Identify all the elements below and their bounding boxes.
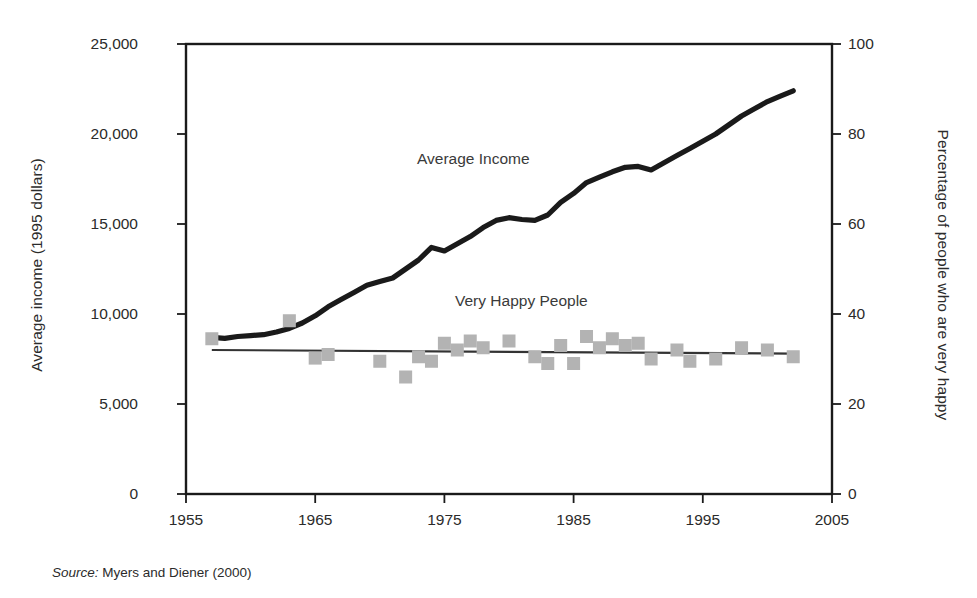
source-citation: Myers and Diener (2000) xyxy=(99,565,252,580)
y-tick-label-right: 0 xyxy=(848,486,908,502)
chart-figure: Average income (1995 dollars) Percentage… xyxy=(0,0,977,598)
happiness-data-marker xyxy=(619,339,632,352)
y-tick-label-left: 10,000 xyxy=(40,306,138,322)
happiness-data-marker xyxy=(541,357,554,370)
happiness-data-marker xyxy=(322,348,335,361)
happiness-data-marker xyxy=(567,357,580,370)
happiness-data-marker xyxy=(477,341,490,354)
y-tick-label-left: 20,000 xyxy=(40,126,138,142)
x-tick-label: 2005 xyxy=(787,512,877,528)
y-tick-label-right: 20 xyxy=(848,396,908,412)
y-tick-label-left: 25,000 xyxy=(40,36,138,52)
source-note: Source: Myers and Diener (2000) xyxy=(52,565,252,580)
happiness-data-marker xyxy=(761,344,774,357)
happiness-data-marker xyxy=(503,335,516,348)
series-label-average-income: Average Income xyxy=(417,150,530,168)
right-axis-title: Percentage of people who are very happy xyxy=(934,40,952,510)
happiness-data-marker xyxy=(528,350,541,363)
y-tick-label-right: 80 xyxy=(848,126,908,142)
happiness-data-marker xyxy=(735,341,748,354)
happiness-data-marker xyxy=(309,352,322,365)
y-tick-label-left: 15,000 xyxy=(40,216,138,232)
y-tick-label-left: 5,000 xyxy=(40,396,138,412)
plot-frame xyxy=(186,44,832,494)
y-tick-label-right: 100 xyxy=(848,36,908,52)
happiness-data-marker xyxy=(399,371,412,384)
x-tick-label: 1975 xyxy=(399,512,489,528)
y-tick-label-right: 60 xyxy=(848,216,908,232)
left-axis-title: Average income (1995 dollars) xyxy=(28,30,46,500)
happiness-data-marker xyxy=(438,337,451,350)
happiness-data-marker xyxy=(709,353,722,366)
x-tick-label: 1995 xyxy=(658,512,748,528)
y-tick-label-left: 0 xyxy=(40,486,138,502)
x-tick-label: 1965 xyxy=(270,512,360,528)
happiness-trend-line xyxy=(212,350,793,354)
happiness-data-marker xyxy=(606,332,619,345)
happiness-data-marker xyxy=(554,339,567,352)
happiness-data-marker xyxy=(205,332,218,345)
happiness-data-marker xyxy=(580,330,593,343)
x-tick-label: 1985 xyxy=(529,512,619,528)
happiness-data-marker xyxy=(425,355,438,368)
happiness-data-marker xyxy=(593,341,606,354)
happiness-data-marker xyxy=(787,350,800,363)
source-prefix: Source: xyxy=(52,565,99,580)
x-tick-label: 1955 xyxy=(141,512,231,528)
happiness-data-marker xyxy=(464,335,477,348)
happiness-data-marker xyxy=(373,355,386,368)
happiness-data-marker xyxy=(451,344,464,357)
happiness-data-marker xyxy=(632,337,645,350)
happiness-data-marker xyxy=(670,344,683,357)
y-tick-label-right: 40 xyxy=(848,306,908,322)
happiness-data-marker xyxy=(412,350,425,363)
happiness-data-marker xyxy=(683,355,696,368)
happiness-data-marker xyxy=(645,353,658,366)
series-label-very-happy-people: Very Happy People xyxy=(455,292,588,310)
happiness-data-marker xyxy=(283,314,296,327)
